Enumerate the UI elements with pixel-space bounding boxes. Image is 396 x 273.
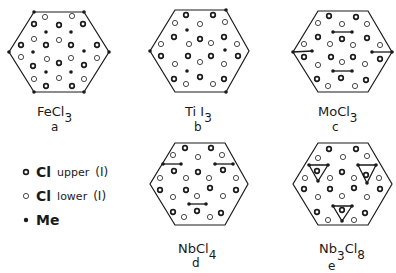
cl-upper-atom (171, 210, 176, 215)
cl-upper-atom (340, 170, 345, 175)
label-moCl3: MoCl3 (318, 104, 358, 119)
cl-lower-atom (233, 175, 238, 180)
legend-item-cl-upper: Cl upper (I) (22, 160, 108, 184)
cl-lower-atom (339, 193, 344, 198)
cl-lower-atom (158, 41, 163, 46)
cl-upper-atom (236, 54, 241, 59)
metal-atom-vertex (224, 8, 228, 12)
cl-upper-atom (57, 23, 62, 28)
cl-lower-atom (339, 21, 344, 26)
metal-atom (231, 162, 235, 166)
panel-letter-a: a (51, 120, 58, 134)
bold-ring-icon (22, 165, 34, 179)
metal-atom (310, 49, 314, 53)
cl-lower-atom (376, 175, 381, 180)
metal-atom (331, 204, 335, 208)
cl-upper-atom (57, 61, 62, 66)
cl-upper-atom (365, 36, 370, 41)
cl-lower-atom (170, 152, 175, 157)
cl-lower-atom (18, 54, 23, 59)
cl-upper-atom (211, 13, 216, 18)
cl-upper-atom (198, 75, 203, 80)
cl-lower-atom (42, 14, 47, 19)
metal-atom-vertex (390, 50, 394, 54)
cl-upper-atom (221, 168, 226, 173)
cl-lower-atom (56, 37, 61, 42)
metal-atom (331, 69, 335, 73)
cl-upper-atom (378, 187, 383, 192)
cl-lower-atom (195, 154, 200, 159)
cl-upper-atom (186, 54, 191, 59)
cl-lower-atom (172, 20, 177, 25)
cl-upper-atom (31, 64, 36, 69)
cl-lower-atom (183, 81, 188, 86)
metal-atom-vertex (32, 10, 36, 14)
cl-upper-atom (69, 43, 74, 48)
cl-lower-atom (234, 41, 239, 46)
metal-atom (356, 163, 360, 167)
panel-letter-d: d (192, 256, 200, 270)
cl-lower-atom (327, 41, 332, 46)
metal-atom (365, 181, 369, 185)
cl-lower-atom (315, 155, 320, 160)
cl-lower-atom (56, 75, 61, 80)
cl-upper-atom (81, 22, 86, 27)
cl-upper-atom (339, 76, 344, 81)
cl-lower-atom (327, 175, 332, 180)
cl-upper-atom (327, 147, 332, 152)
metal-atom (69, 30, 73, 34)
cl-lower-atom (340, 154, 345, 159)
cl-upper-atom (222, 35, 227, 40)
cl-lower-atom (325, 83, 330, 88)
cl-upper-atom (184, 13, 189, 18)
cl-upper-atom (32, 22, 37, 27)
metal-atom (44, 70, 48, 74)
panel-e (293, 143, 392, 225)
cl-lower-atom (352, 83, 357, 88)
metal-atom-vertex (291, 50, 295, 54)
metal-bond (293, 51, 312, 52)
cl-upper-atom (196, 170, 201, 175)
cl-lower-atom (219, 152, 224, 157)
cl-lower-atom (210, 81, 215, 86)
metal-atom (331, 30, 335, 34)
metal-atom (326, 163, 330, 167)
cl-lower-atom (315, 62, 320, 67)
legend: Cl upper (I) Cl lower (I) Me (22, 160, 108, 232)
cl-upper-atom (172, 35, 177, 40)
panel-letter-e: e (328, 259, 335, 273)
metal-atom (31, 50, 35, 54)
cl-upper-atom (354, 147, 359, 152)
metal-atom (179, 162, 183, 166)
cl-lower-atom (220, 193, 225, 198)
cl-upper-atom (159, 54, 164, 59)
cl-lower-atom (183, 175, 188, 180)
cl-upper-atom (351, 55, 356, 60)
cl-lower-atom (221, 61, 226, 66)
cl-upper-atom (302, 187, 307, 192)
metal-atom (340, 219, 344, 223)
metal-atom (316, 179, 320, 183)
cl-upper-atom (234, 188, 239, 193)
cl-lower-atom (364, 153, 369, 158)
cl-upper-atom (363, 211, 368, 216)
cl-lower-atom (31, 36, 36, 41)
cl-lower-atom (94, 55, 99, 60)
cl-upper-atom (158, 188, 163, 193)
cl-upper-atom (340, 37, 345, 42)
cl-lower-atom (69, 13, 74, 18)
cl-upper-atom (195, 209, 200, 214)
cl-lower-atom (302, 175, 307, 180)
metal-atom-vertex (32, 90, 36, 94)
panel-b (148, 8, 249, 94)
legend-item-me: Me (22, 208, 108, 232)
metal-atom (204, 202, 208, 206)
cl-lower-atom (364, 21, 369, 26)
cl-lower-atom (172, 61, 177, 66)
cl-upper-atom (378, 57, 383, 62)
cl-upper-atom (209, 54, 214, 59)
cl-upper-atom (95, 43, 100, 48)
cl-upper-atom (328, 187, 333, 192)
cl-lower-atom (364, 194, 369, 199)
label-tiI3: Ti I3 (185, 104, 212, 119)
